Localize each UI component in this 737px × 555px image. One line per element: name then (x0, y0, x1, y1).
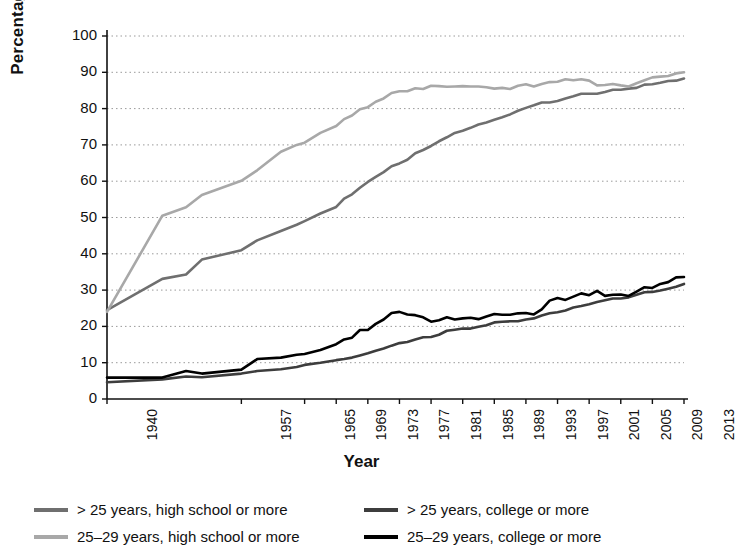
legend-item: > 25 years, college or more (364, 501, 694, 518)
legend-label: 25–29 years, high school or more (77, 528, 300, 545)
series-line-1 (107, 78, 684, 310)
legend-label: > 25 years, high school or more (77, 501, 288, 518)
legend-label: > 25 years, college or more (407, 501, 589, 518)
legend-swatch-icon (364, 535, 398, 539)
x-tick-label: 2013 (721, 409, 737, 440)
legend-item: 25–29 years, high school or more (34, 528, 364, 545)
legend-item: 25–29 years, college or more (364, 528, 694, 545)
legend-label: 25–29 years, college or more (407, 528, 601, 545)
legend-swatch-icon (364, 508, 398, 512)
chart-legend: > 25 years, high school or more> 25 year… (34, 496, 694, 550)
legend-swatch-icon (34, 535, 68, 539)
legend-item: > 25 years, high school or more (34, 501, 364, 518)
series-line-3 (107, 284, 684, 382)
legend-swatch-icon (34, 508, 68, 512)
